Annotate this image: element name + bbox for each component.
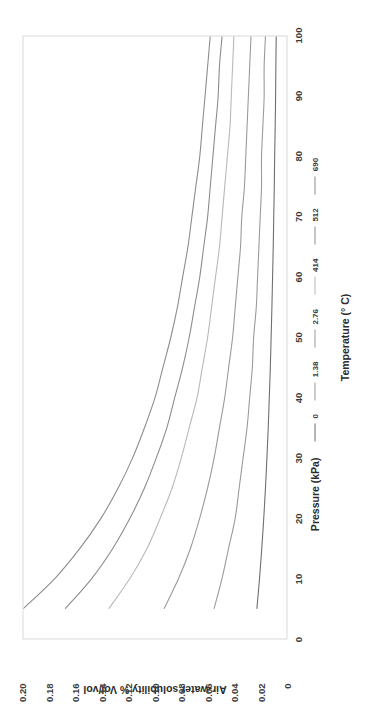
legend-label: 414 (310, 258, 319, 271)
series-line (256, 36, 275, 608)
legend-item: 1.38 (310, 361, 319, 400)
x-tick-label: 20 (292, 501, 303, 535)
y-tick-label: 0.06 (202, 683, 213, 717)
y-tick-label: 0.12 (123, 683, 134, 717)
x-tick-label: 100 (292, 18, 303, 52)
y-tick-label: 0.14 (96, 683, 107, 717)
legend-items: 01.382.76414512690 (310, 143, 319, 441)
legend-label: 0 (310, 414, 319, 418)
x-tick-label: 80 (292, 139, 303, 173)
x-tick-label: 50 (292, 320, 303, 354)
legend-item: 0 (310, 414, 319, 441)
legend-swatch-icon (314, 423, 315, 441)
legend-label: 512 (310, 208, 319, 221)
chart-legend: Pressure (kPa) 01.382.76414512690 (308, 35, 320, 639)
legend-swatch-icon (314, 329, 315, 347)
legend-swatch-icon (314, 382, 315, 400)
legend-label: 690 (310, 157, 319, 170)
legend-title: Pressure (kPa) (308, 457, 320, 531)
series-line (214, 36, 265, 608)
legend-item: 512 (310, 208, 319, 244)
series-lines (23, 36, 286, 638)
y-tick-label: 0.08 (176, 683, 187, 717)
x-tick-label: 10 (292, 562, 303, 596)
legend-label: 2.76 (310, 308, 319, 324)
x-tick-label: 40 (292, 380, 303, 414)
series-line (23, 36, 210, 608)
legend-swatch-icon (314, 226, 315, 244)
series-line (108, 36, 233, 608)
x-axis-title: Temperature (° C) (338, 35, 350, 639)
y-tick-label: 0.10 (149, 683, 160, 717)
y-tick-label: 0.16 (70, 683, 81, 717)
legend-label: 1.38 (310, 361, 319, 377)
x-tick-label: 90 (292, 78, 303, 112)
series-line (164, 36, 251, 608)
x-tick-label: 30 (292, 441, 303, 475)
y-tick-label: 0.18 (43, 683, 54, 717)
x-tick-label: 0 (292, 622, 303, 656)
legend-item: 2.76 (310, 308, 319, 347)
legend-swatch-icon (314, 276, 315, 294)
legend-item: 414 (310, 258, 319, 294)
y-tick-label: 0.04 (229, 683, 240, 717)
figure-rotator: Air-water solubility % Vol/vol 00.020.04… (0, 0, 379, 717)
x-tick-label: 60 (292, 260, 303, 294)
x-tick-label: 70 (292, 199, 303, 233)
y-tick-label: 0 (282, 683, 293, 717)
legend-swatch-icon (314, 176, 315, 194)
chart-figure: Air-water solubility % Vol/vol 00.020.04… (0, 0, 379, 717)
legend-item: 690 (310, 157, 319, 193)
plot-area (22, 35, 287, 639)
y-tick-label: 0.20 (17, 683, 28, 717)
y-tick-label: 0.02 (255, 683, 266, 717)
